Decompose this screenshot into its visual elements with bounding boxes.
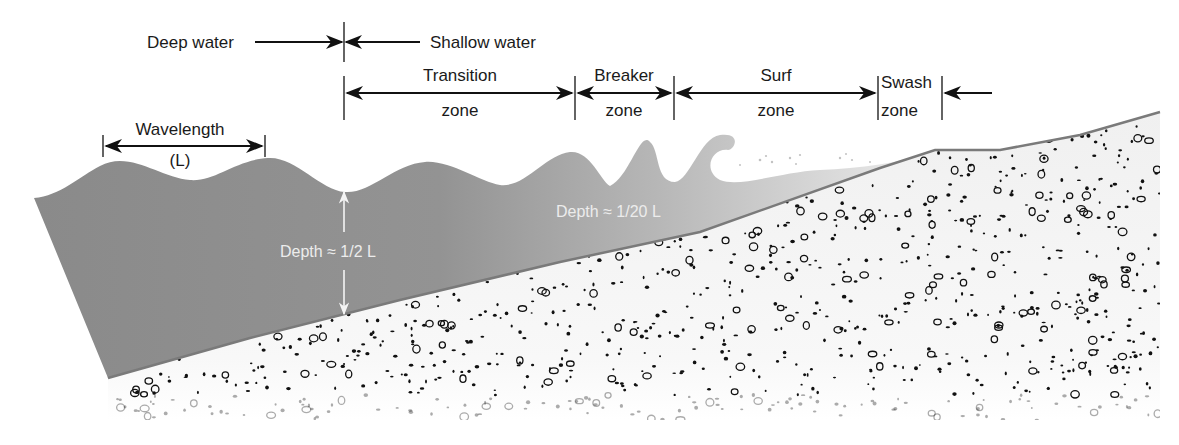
breaker-zone-sublabel: zone (606, 102, 643, 119)
shallow-depth-label: Depth ≈ 1/20 L (556, 204, 661, 220)
transition-zone-sublabel: zone (442, 102, 479, 119)
wavelength-label: Wavelength (135, 121, 224, 138)
swash-zone-sublabel: zone (881, 102, 918, 119)
diagram-canvas (0, 0, 1179, 445)
wavelength-symbol: (L) (170, 152, 191, 169)
surf-foam (739, 153, 871, 166)
shallow-water-label: Shallow water (430, 34, 536, 51)
surf-zone-sublabel: zone (758, 102, 795, 119)
breaker-zone-label: Breaker (594, 67, 654, 84)
deep-water-label: Deep water (147, 34, 234, 51)
swash-zone-label: Swash (881, 74, 932, 91)
beach-wave-zone-diagram: Deep water Shallow water Transition zone… (0, 0, 1179, 445)
surf-zone-label: Surf (760, 67, 791, 84)
deep-depth-label: Depth ≈ 1/2 L (280, 244, 376, 260)
transition-zone-label: Transition (423, 67, 497, 84)
